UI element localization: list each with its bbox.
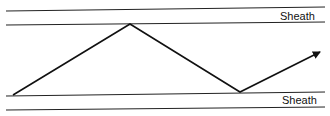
top-outer-line — [6, 7, 325, 11]
bottom-outer-line — [6, 107, 325, 110]
reflected-wave-path — [13, 24, 320, 95]
sheath-wave-diagram: Sheath Sheath — [0, 0, 330, 116]
bottom-sheath-boundary-line — [6, 92, 325, 96]
top-sheath-boundary-line — [6, 22, 325, 25]
bottom-sheath-label: Sheath — [282, 94, 317, 106]
top-sheath-label: Sheath — [280, 10, 315, 22]
